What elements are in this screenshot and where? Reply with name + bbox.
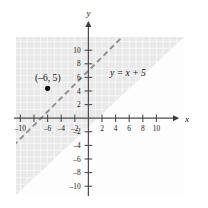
x-axis-label: x	[184, 114, 189, 124]
coordinate-graph: –10 –6 –4 –2 2 4 6 8 10 10 8 6 4 2 –2 –4…	[0, 0, 208, 208]
graph-svg: –10 –6 –4 –2 2 4 6 8 10 10 8 6 4 2 –2 –4…	[0, 0, 208, 208]
x-tick-label-neg6: –6	[43, 124, 52, 133]
point-label: (–6, 5)	[35, 72, 61, 84]
y-tick-label-neg6: –6	[72, 155, 81, 164]
y-tick-label-4: 4	[77, 87, 81, 96]
y-tick-label-10: 10	[73, 46, 81, 55]
x-tick-label-8: 8	[141, 124, 145, 133]
y-axis-label: y	[85, 8, 90, 18]
y-tick-label-neg4: –4	[72, 141, 81, 150]
equation-label: y = x + 5	[109, 67, 146, 78]
x-tick-label-10: 10	[153, 124, 161, 133]
x-tick-label-neg4: –4	[57, 124, 66, 133]
y-tick-label-2: 2	[77, 100, 81, 109]
y-tick-label-8: 8	[77, 59, 81, 68]
x-tick-label-6: 6	[127, 124, 131, 133]
x-tick-label-neg10: –10	[14, 124, 26, 133]
y-tick-label-neg8: –8	[72, 168, 81, 177]
y-tick-label-neg10: –10	[69, 182, 81, 191]
x-tick-label-2: 2	[100, 124, 104, 133]
y-tick-label-6: 6	[77, 73, 81, 82]
x-tick-label-4: 4	[114, 124, 118, 133]
point-marker	[45, 86, 50, 91]
y-tick-label-neg2: –2	[72, 127, 81, 136]
